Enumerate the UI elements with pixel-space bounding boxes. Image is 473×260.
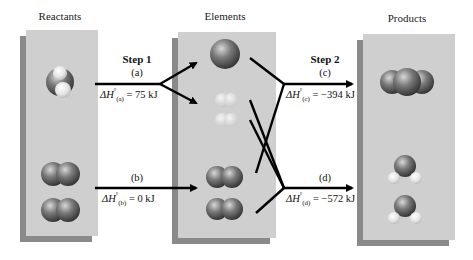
reaction-d-enthalpy: ΔH°(d) = −572 kJ: [286, 192, 355, 207]
reaction-b-enthalpy: ΔH°(b) = 0 kJ: [102, 192, 155, 207]
step1-label: Step 1: [112, 53, 162, 65]
reaction-c-enthalpy: ΔH°(c) = −394 kJ: [286, 88, 355, 103]
reaction-c-tag: (c): [300, 67, 350, 78]
water-molecule-1: [388, 155, 422, 184]
oxygen-molecule-3: [206, 166, 243, 188]
hydrogen-molecule-1: [215, 93, 238, 107]
reaction-a-enthalpy: ΔH°(a) = 75 kJ: [100, 88, 158, 103]
diagram-graphics: [0, 0, 473, 260]
methane-molecule: [46, 66, 74, 98]
oxygen-molecule-2: [41, 198, 80, 222]
reaction-d-tag: (d): [300, 172, 350, 183]
step1-arrows: [95, 63, 196, 188]
water-molecule-2: [388, 195, 422, 224]
reaction-a-tag: (a): [112, 67, 162, 78]
carbon-atom: [210, 39, 240, 69]
step2-label: Step 2: [300, 53, 350, 65]
carbon-dioxide-molecule: [380, 68, 434, 96]
hydrogen-molecule-2: [215, 113, 238, 127]
reaction-b-tag: (b): [112, 172, 162, 183]
oxygen-molecule-4: [206, 198, 243, 220]
step2-arrows: [250, 58, 352, 213]
oxygen-molecule-1: [41, 162, 80, 186]
